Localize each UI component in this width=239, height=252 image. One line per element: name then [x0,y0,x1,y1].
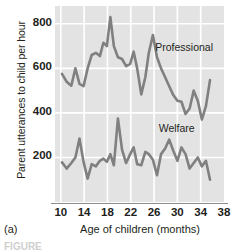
x-axis-tick-labels: 1014182226303438 [55,206,230,222]
y-tick-600: 600 [2,60,52,72]
figure-caption-partial: FIGURE [4,241,42,252]
panel-label: (a) [4,223,17,235]
x-tick-38: 38 [209,206,239,218]
y-axis-tick-labels: 200400600800 [0,0,52,246]
x-axis-line [51,203,228,204]
y-tick-400: 400 [2,105,52,117]
series-label-professional: Professional [155,41,213,53]
y-tick-200: 200 [2,149,52,161]
plot-area: ProfessionalWelfare [55,6,224,202]
y-tick-800: 800 [2,16,52,28]
series-line-professional [62,17,210,119]
data-lines [55,6,224,202]
series-label-welfare: Welfare [159,122,195,134]
x-axis-title: Age of children (months) [55,223,225,235]
